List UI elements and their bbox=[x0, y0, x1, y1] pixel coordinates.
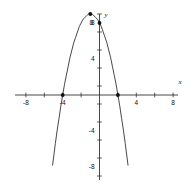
point-value-label: 8 bbox=[89, 19, 93, 26]
x-tick-label: -8 bbox=[23, 99, 29, 106]
right-x-intercept-point bbox=[116, 93, 120, 97]
graph-canvas: -8-448-8-4488 x y bbox=[0, 0, 193, 188]
x-tick-label: 4 bbox=[134, 99, 138, 106]
y-tick-label: -4 bbox=[89, 127, 95, 134]
x-tick-label: 8 bbox=[171, 99, 175, 106]
parabola-curve bbox=[53, 14, 128, 165]
vertex-point bbox=[88, 12, 92, 16]
y-axis-label: y bbox=[103, 11, 108, 19]
y-tick-label: 4 bbox=[91, 55, 95, 62]
x-tick-label: -4 bbox=[60, 99, 66, 106]
left-x-intercept-point bbox=[61, 93, 65, 97]
coordinate-plane-svg: -8-448-8-4488 x y bbox=[0, 0, 193, 188]
axes-group bbox=[15, 14, 178, 180]
y-intercept-point bbox=[98, 21, 102, 25]
y-tick-label: -8 bbox=[89, 163, 95, 170]
x-axis-label: x bbox=[177, 78, 182, 86]
parabola-curve-group bbox=[53, 14, 128, 165]
